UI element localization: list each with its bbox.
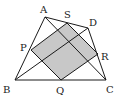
label-p: P [20,42,27,53]
label-c: C [106,84,114,95]
label-r: R [101,51,109,62]
label-a: A [39,4,48,15]
shaded-parallelogram-pqrs [31,23,98,80]
label-b: B [3,84,10,95]
label-s: S [64,9,71,20]
geometry-diagram: A S D P R B Q C [0,0,120,100]
label-d: D [89,17,97,28]
label-q: Q [56,85,64,96]
